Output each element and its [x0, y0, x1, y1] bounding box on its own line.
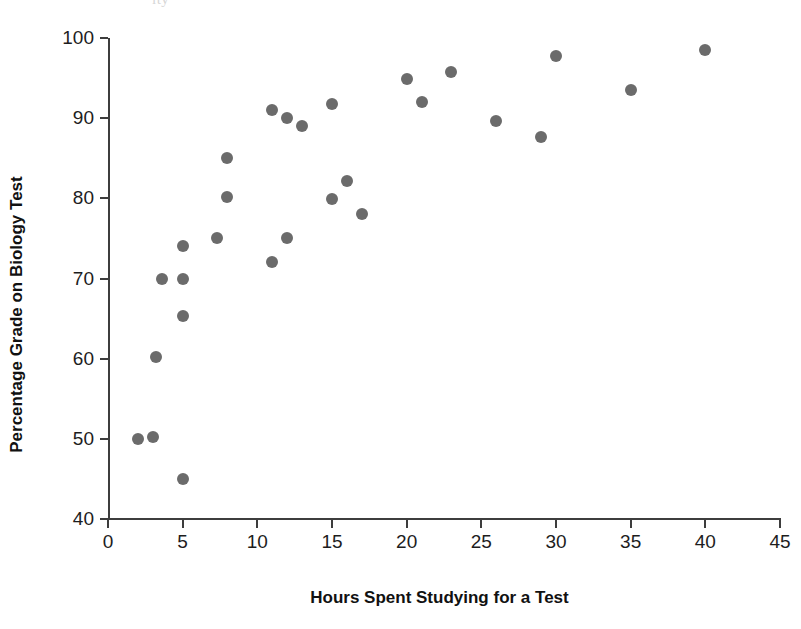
data-point	[356, 208, 368, 220]
data-point	[281, 232, 293, 244]
x-axis-tick	[555, 520, 557, 528]
x-axis-tick-label: 15	[312, 531, 352, 553]
data-point	[296, 120, 308, 132]
data-point	[177, 473, 189, 485]
data-point	[150, 351, 162, 363]
x-axis-tick-label: 10	[237, 531, 277, 553]
data-point	[326, 98, 338, 110]
data-point	[221, 191, 233, 203]
data-point	[211, 232, 223, 244]
data-point	[132, 433, 144, 445]
y-axis-tick	[100, 278, 108, 280]
data-point	[221, 152, 233, 164]
x-axis-tick-label: 35	[611, 531, 651, 553]
data-point	[281, 112, 293, 124]
x-axis-tick	[331, 520, 333, 528]
data-point	[445, 66, 457, 78]
x-axis-tick-label: 5	[163, 531, 203, 553]
data-point	[416, 96, 428, 108]
data-point	[147, 431, 159, 443]
x-axis-tick-label: 0	[88, 531, 128, 553]
x-axis-tick	[256, 520, 258, 528]
x-axis-tick	[630, 520, 632, 528]
x-axis-tick-label: 25	[461, 531, 501, 553]
x-axis-tick	[182, 520, 184, 528]
x-axis-tick	[406, 520, 408, 528]
scan-artifact-text: ity	[152, 0, 169, 8]
data-point	[266, 256, 278, 268]
data-point	[490, 115, 502, 127]
x-axis-tick	[480, 520, 482, 528]
x-axis-tick	[107, 520, 109, 528]
data-point	[341, 175, 353, 187]
x-axis-title: Hours Spent Studying for a Test	[0, 588, 801, 608]
y-axis-tick	[100, 37, 108, 39]
y-axis-title: Percentage Grade on Biology Test	[0, 0, 66, 629]
data-point	[401, 73, 413, 85]
x-axis-tick	[704, 520, 706, 528]
y-axis-tick	[100, 117, 108, 119]
x-axis-tick-label: 40	[685, 531, 725, 553]
data-point	[177, 240, 189, 252]
data-point	[699, 44, 711, 56]
data-point	[156, 273, 168, 285]
data-point	[266, 104, 278, 116]
data-point	[625, 84, 637, 96]
data-point	[177, 273, 189, 285]
x-axis-tick-label: 30	[536, 531, 576, 553]
scatter-plot-figure: ity 405060708090100 051015202530354045 H…	[0, 0, 801, 629]
y-axis-tick	[100, 438, 108, 440]
y-axis-tick	[100, 358, 108, 360]
data-point	[535, 131, 547, 143]
data-point	[550, 50, 562, 62]
x-axis-tick-label: 20	[387, 531, 427, 553]
data-point	[326, 193, 338, 205]
data-points-layer	[108, 38, 780, 519]
x-axis-tick-label: 45	[760, 531, 800, 553]
data-point	[177, 310, 189, 322]
x-axis-tick	[779, 520, 781, 528]
y-axis-tick	[100, 197, 108, 199]
